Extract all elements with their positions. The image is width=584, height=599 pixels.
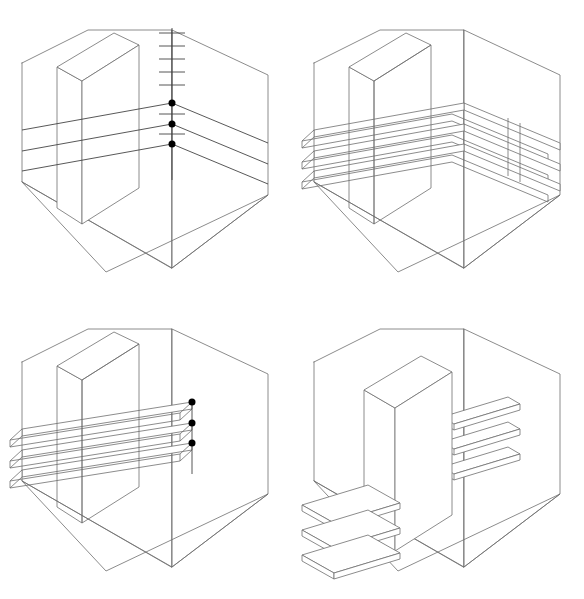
partition-column-1 — [57, 33, 139, 224]
column-top-face — [57, 332, 139, 380]
column-left-face — [57, 67, 82, 224]
floor-plane — [22, 481, 268, 571]
panel-step-1 — [0, 0, 292, 300]
diagram-sheet — [0, 0, 584, 599]
shelf-slabs-3 — [10, 402, 192, 488]
panel-4-canvas — [292, 299, 584, 599]
shelf-end-marker-1 — [189, 399, 196, 406]
shelf-end-marker-2 — [189, 420, 196, 427]
panel-step-4 — [292, 299, 584, 599]
shelf-segments-left-4 — [302, 485, 400, 579]
shelf-2-front-edge — [302, 135, 452, 162]
shelf-3-front-edge — [302, 155, 452, 182]
height-marker-1 — [169, 100, 176, 107]
height-marker-3 — [169, 141, 176, 148]
right-wall-outline — [172, 30, 268, 268]
panel-step-2 — [292, 0, 584, 300]
panel-step-3 — [0, 299, 292, 599]
panel-3-canvas — [0, 299, 292, 599]
height-marker-2 — [169, 121, 176, 128]
floor-plane — [314, 182, 560, 272]
shelf-3-front-edge-right-lower — [452, 162, 548, 202]
shelf-end-marker-3 — [189, 440, 196, 447]
column-top-face — [349, 33, 431, 81]
shelf-segments-right-4 — [442, 397, 520, 480]
panel-2-canvas — [292, 0, 584, 300]
shelf-1-right-run — [464, 103, 560, 150]
panel-1-canvas — [0, 0, 292, 300]
